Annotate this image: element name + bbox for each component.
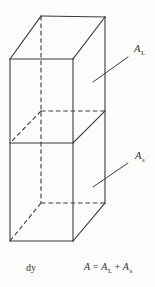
top-face-right-edge <box>73 17 105 59</box>
hidden-edges <box>10 16 105 241</box>
area-equation: A=AL+As <box>84 262 132 272</box>
mid-face-right-edge <box>73 111 105 143</box>
lower-area-label: As <box>135 151 144 162</box>
fin-element-figure: AL As dy A=AL+As <box>0 0 155 287</box>
equation-equals-sign: = <box>93 262 99 272</box>
lower-area-leader-line <box>93 163 128 187</box>
bottom-face-right-edge <box>73 203 105 241</box>
lower-area-subscript: s <box>142 156 145 164</box>
upper-area-subscript: L <box>141 49 145 57</box>
equation-term1-subscript: L <box>108 267 112 275</box>
lower-area-symbol: A <box>135 150 141 161</box>
equation-term1-symbol: A <box>101 261 107 272</box>
mid-face-left-hidden-edge <box>10 111 41 143</box>
upper-area-symbol: A <box>134 43 140 54</box>
equation-term2-symbol: A <box>123 261 129 272</box>
equation-lhs: A <box>84 261 90 272</box>
top-face-left-edge <box>10 16 41 59</box>
equation-plus-sign: + <box>114 262 120 272</box>
top-face-back-edge <box>41 16 105 17</box>
height-differential-label: dy <box>26 263 36 273</box>
prism-diagram <box>0 0 155 287</box>
bottom-face-left-hidden-edge <box>10 203 41 241</box>
leader-lines <box>93 57 128 187</box>
upper-area-label: AL <box>134 44 145 55</box>
upper-area-leader-line <box>93 57 128 82</box>
equation-term2-subscript: s <box>130 267 133 275</box>
